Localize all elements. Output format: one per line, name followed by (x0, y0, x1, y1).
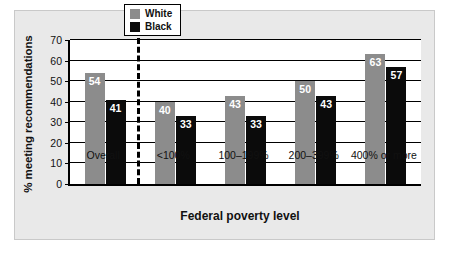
y-axis-tick-label: 40 (50, 96, 62, 108)
gridline (70, 39, 421, 40)
y-axis-tick-mark (65, 81, 70, 82)
bar-value-label: 50 (295, 84, 315, 95)
y-axis-tick-label: 70 (50, 34, 62, 46)
bar-value-label: 43 (225, 99, 245, 110)
bar-value-label: 54 (85, 76, 105, 87)
bar-white: 50 (295, 81, 315, 184)
bar-black: 57 (386, 67, 406, 184)
legend-label: Black (145, 21, 172, 32)
bar-black: 41 (106, 100, 126, 184)
x-axis-category-label: 100–199% (218, 149, 268, 161)
y-axis-tick-label: 20 (50, 137, 62, 149)
y-axis-tick-label: 10 (50, 157, 62, 169)
y-axis-tick-label: 50 (50, 75, 62, 87)
x-axis-category-label: 200–399% (289, 149, 339, 161)
overall-separator-line (137, 38, 140, 184)
bar-value-label: 43 (316, 99, 336, 110)
bar-value-label: 57 (386, 70, 406, 81)
bar-value-label: 63 (365, 57, 385, 68)
legend-swatch-white (130, 9, 140, 19)
bar-black: 43 (316, 96, 336, 184)
legend-label: White (145, 8, 172, 19)
y-axis-tick-mark (65, 184, 70, 185)
bar-value-label: 41 (106, 103, 126, 114)
y-axis-tick-mark (65, 122, 70, 123)
bar-value-label: 33 (176, 119, 196, 130)
legend-entry: White (130, 8, 172, 19)
chart-legend: WhiteBlack (124, 4, 181, 36)
legend-swatch-black (130, 22, 140, 32)
y-axis-tick-label: 30 (50, 116, 62, 128)
x-axis-category-label: <100% (157, 149, 190, 161)
bar-white: 40 (155, 102, 175, 184)
x-axis-category-label: Overall (86, 149, 119, 161)
y-axis-tick-mark (65, 143, 70, 144)
y-axis-tick-label: 60 (50, 55, 62, 67)
legend-entry: Black (130, 21, 172, 32)
x-axis-title: Federal poverty level (60, 209, 420, 223)
y-axis-tick-label: 0 (56, 178, 62, 190)
x-axis-category-label: 400% or more (351, 149, 417, 161)
bar-value-label: 40 (155, 105, 175, 116)
y-axis-title: % meeting recommendations (22, 34, 34, 194)
y-axis-tick-mark (65, 61, 70, 62)
plot-area: 010203040506070 54414033433350436357 (68, 40, 421, 186)
bar-value-label: 33 (246, 119, 266, 130)
y-axis-tick-mark (65, 102, 70, 103)
figure-root: % meeting recommendations 01020304050607… (0, 0, 453, 254)
bar-white: 54 (85, 73, 105, 184)
y-axis-tick-mark (65, 163, 70, 164)
bar-white: 43 (225, 96, 245, 184)
bar-white: 63 (365, 54, 385, 184)
y-axis-tick-mark (65, 40, 70, 41)
